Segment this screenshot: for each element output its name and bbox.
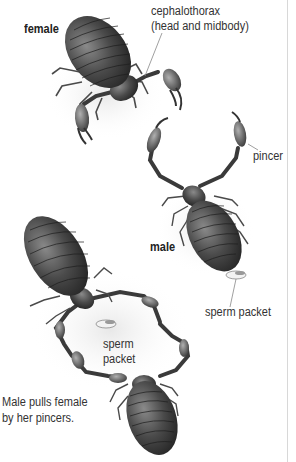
label-sperm-packet-center-line1: sperm [103, 337, 134, 352]
label-pincer: pincer [253, 149, 283, 164]
caption-line1: Male pulls female [2, 395, 88, 410]
male-pseudoscorpion-middle [144, 112, 255, 281]
label-sperm-packet-right: sperm packet [205, 305, 271, 320]
sperm-packet-right [226, 271, 246, 279]
illustration-frame: female cephalothorax (head and midbody) … [0, 0, 296, 462]
caption-line2: by her pincers. [2, 411, 74, 426]
sperm-packet-center [96, 320, 116, 328]
label-male: male [150, 240, 175, 255]
label-sperm-packet-center-line2: packet [103, 352, 135, 367]
pseudoscorpion-illustration [0, 0, 296, 462]
label-cephalothorax: cephalothorax [151, 4, 220, 19]
sperm-packet-leader-line [230, 279, 236, 307]
label-cephalothorax-detail: (head and midbody) [151, 19, 249, 34]
label-female: female [24, 22, 59, 37]
right-border-line [287, 0, 288, 462]
